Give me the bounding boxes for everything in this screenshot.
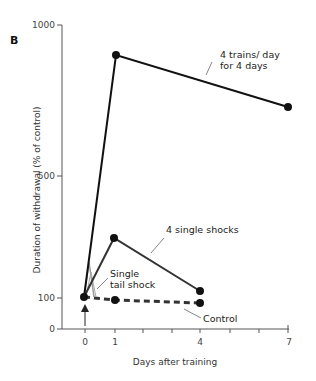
y-axis: 1000 500 100 0 Duration of withdrawal (%…	[32, 20, 62, 334]
series-4-trains-per-day	[84, 51, 292, 297]
series-control	[84, 296, 204, 307]
y-tick-1000: 1000	[32, 20, 55, 30]
x-axis-title: Days after training	[133, 357, 217, 367]
chart: B 1000 500 100 0 Duration of withdrawal …	[0, 0, 316, 381]
x-axis: 0 1 4 7 Days after training	[62, 325, 292, 367]
x-tick-4: 4	[197, 337, 203, 347]
svg-text:Control: Control	[203, 313, 237, 324]
svg-text:4 trains/ day: 4 trains/ day	[220, 49, 280, 60]
annotation-4-trains: 4 trains/ day for 4 days	[206, 49, 280, 75]
annotation-single-tail-shock: Single tail shock	[97, 268, 156, 290]
x-tick-0: 0	[82, 337, 88, 347]
x-tick-1: 1	[112, 337, 118, 347]
training-arrow-icon	[81, 304, 89, 326]
origin-point	[80, 293, 88, 301]
x-tick-7: 7	[286, 337, 292, 347]
svg-text:for 4 days: for 4 days	[220, 60, 268, 71]
y-axis-title: Duration of withdrawal (% of control)	[32, 107, 42, 274]
panel-label: B	[10, 34, 18, 47]
svg-text:Single: Single	[110, 268, 139, 279]
annotation-4-single-shocks: 4 single shocks	[151, 224, 239, 253]
svg-text:4 single shocks: 4 single shocks	[166, 224, 239, 235]
svg-text:tail shock: tail shock	[110, 279, 156, 290]
annotation-control: Control	[184, 309, 237, 324]
y-tick-100: 100	[38, 293, 55, 303]
y-tick-0: 0	[49, 324, 55, 334]
